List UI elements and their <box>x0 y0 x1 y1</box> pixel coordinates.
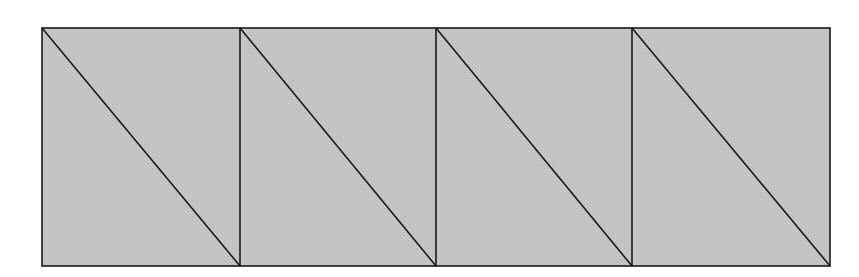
cell-2 <box>436 28 632 266</box>
cell-3 <box>632 28 830 266</box>
cells-group <box>42 28 830 266</box>
cell-1 <box>240 28 436 266</box>
cell-0 <box>42 28 240 266</box>
triangulated-strip-diagram <box>0 0 859 277</box>
